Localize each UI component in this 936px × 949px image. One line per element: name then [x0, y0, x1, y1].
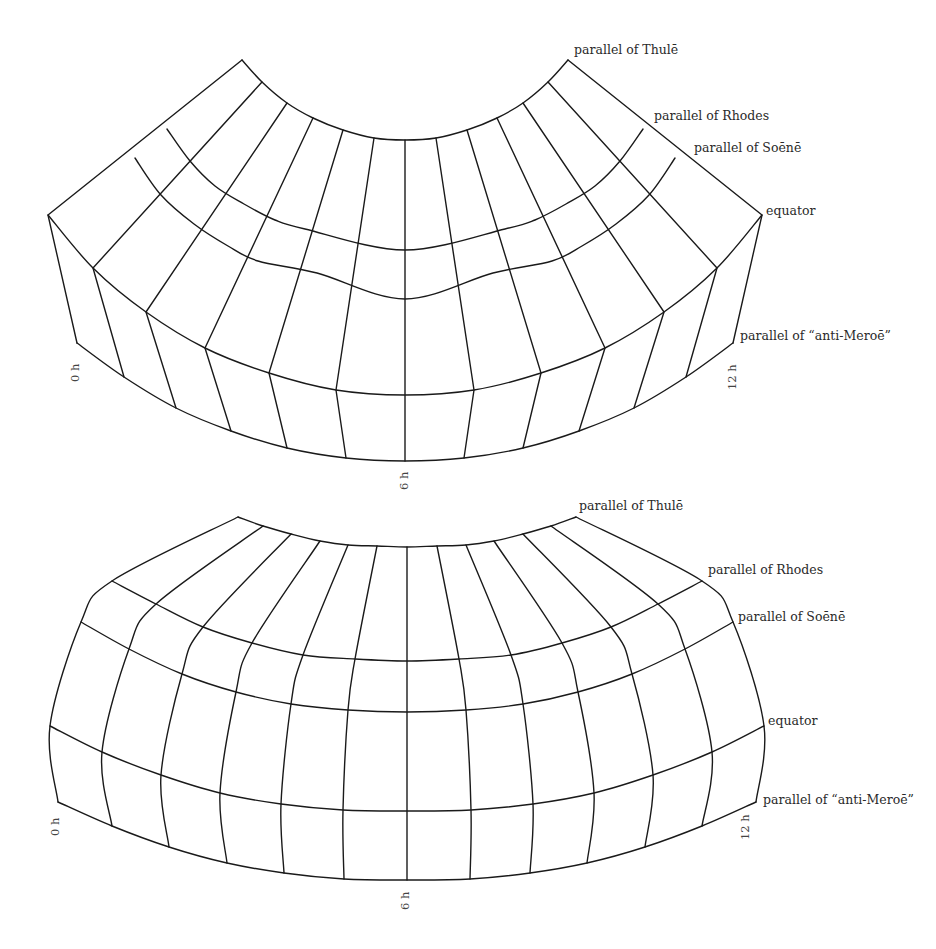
top-hour-label-0h: 0 h [70, 364, 82, 382]
meridian-0h [49, 517, 238, 802]
parallel-thule [242, 60, 568, 140]
top-label-equator: equator [766, 205, 815, 218]
meridian-5h [343, 546, 377, 879]
bottom-projection-graticule [49, 517, 765, 880]
top-label-parallel-rhodes: parallel of Rhodes [654, 110, 769, 123]
meridian-9h [497, 118, 605, 431]
bottom-label-parallel-rhodes: parallel of Rhodes [708, 564, 823, 577]
meridian-10h [523, 534, 653, 847]
meridian-12h [576, 517, 765, 802]
meridian-12h [568, 60, 762, 343]
meridian-5h [336, 138, 374, 458]
meridian-3h [205, 118, 313, 431]
meridian-0h [48, 60, 242, 343]
bottom-label-parallel-thule: parallel of Thulē [579, 500, 683, 513]
top-label-parallel-thule: parallel of Thulē [574, 44, 678, 57]
meridian-3h [220, 541, 320, 863]
bottom-label-parallel-anti-meroe: parallel of “anti-Meroē” [763, 794, 914, 807]
meridian-7h [437, 546, 471, 879]
meridian-2h [146, 103, 287, 408]
bottom-hour-label-0h: 0 h [50, 818, 62, 836]
meridian-2h [161, 534, 291, 847]
parallel-thule [238, 517, 576, 547]
meridian-7h [436, 138, 474, 458]
meridian-10h [523, 103, 664, 408]
top-hour-label-6h: 6 h [399, 472, 411, 490]
bottom-label-equator: equator [768, 715, 817, 728]
meridian-8h [467, 130, 541, 448]
meridian-4h [269, 130, 343, 448]
bottom-hour-label-12h: 12 h [740, 814, 752, 840]
figure: parallel of Thulē parallel of Rhodes par… [0, 0, 936, 949]
top-label-parallel-anti-meroe: parallel of “anti-Meroē” [740, 330, 891, 343]
meridian-9h [494, 541, 594, 863]
bottom-label-parallel-soene: parallel of Soēnē [738, 611, 845, 624]
bottom-hour-label-6h: 6 h [400, 892, 412, 910]
top-hour-label-12h: 12 h [727, 364, 739, 390]
top-label-parallel-soene: parallel of Soēnē [694, 142, 801, 155]
